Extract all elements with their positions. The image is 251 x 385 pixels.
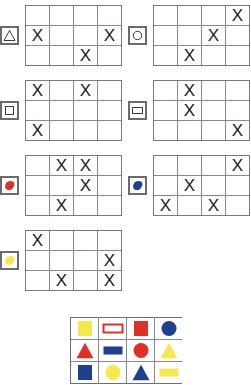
grid-cell-marked[interactable]: X bbox=[178, 46, 201, 65]
grid-cell-empty[interactable] bbox=[98, 101, 121, 120]
puzzle-circle: XXX bbox=[128, 5, 250, 66]
grid-cell-empty[interactable] bbox=[26, 101, 49, 120]
grid-cell-marked[interactable]: X bbox=[226, 6, 249, 25]
grid-cell-empty[interactable] bbox=[178, 121, 201, 140]
grid-cell-marked[interactable]: X bbox=[50, 196, 73, 215]
grid-cell-empty[interactable] bbox=[154, 176, 177, 195]
grid-cell-marked[interactable]: X bbox=[98, 26, 121, 45]
grid-cell-empty[interactable] bbox=[26, 6, 49, 25]
grid-cell-empty[interactable] bbox=[202, 156, 225, 175]
grid-cell-empty[interactable] bbox=[50, 46, 73, 65]
grid-cell-empty[interactable] bbox=[98, 231, 121, 250]
grid-cell-empty[interactable] bbox=[226, 196, 249, 215]
grid-cell-empty[interactable] bbox=[26, 271, 49, 290]
palette-cell[interactable] bbox=[127, 318, 154, 339]
grid-cell-empty[interactable] bbox=[50, 81, 73, 100]
grid-cell-empty[interactable] bbox=[98, 81, 121, 100]
grid-cell-marked[interactable]: X bbox=[26, 121, 49, 140]
grid-cell-empty[interactable] bbox=[178, 26, 201, 45]
grid-cell-empty[interactable] bbox=[74, 26, 97, 45]
grid-cell-marked[interactable]: X bbox=[202, 26, 225, 45]
palette-cell[interactable] bbox=[127, 340, 154, 361]
grid-cell-marked[interactable]: X bbox=[26, 26, 49, 45]
grid-cell-empty[interactable] bbox=[74, 6, 97, 25]
grid-cell-empty[interactable] bbox=[50, 251, 73, 270]
grid-cell-empty[interactable] bbox=[26, 196, 49, 215]
grid-cell-empty[interactable] bbox=[154, 6, 177, 25]
grid-cell-empty[interactable] bbox=[202, 101, 225, 120]
grid-cell-empty[interactable] bbox=[178, 196, 201, 215]
grid-cell-empty[interactable] bbox=[74, 231, 97, 250]
grid-cell-marked[interactable]: X bbox=[26, 231, 49, 250]
palette-cell[interactable] bbox=[99, 340, 126, 361]
grid-cell-empty[interactable] bbox=[202, 176, 225, 195]
grid-cell-empty[interactable] bbox=[74, 251, 97, 270]
palette-cell[interactable] bbox=[99, 362, 126, 383]
puzzle-yellow-blob: XXXX bbox=[0, 230, 122, 291]
grid-cell-empty[interactable] bbox=[154, 156, 177, 175]
grid-cell-marked[interactable]: X bbox=[74, 156, 97, 175]
grid-cell-marked[interactable]: X bbox=[178, 101, 201, 120]
grid-cell-marked[interactable]: X bbox=[98, 271, 121, 290]
grid-cell-empty[interactable] bbox=[98, 196, 121, 215]
palette-cell[interactable] bbox=[71, 318, 98, 339]
grid-cell-empty[interactable] bbox=[50, 26, 73, 45]
grid-cell-empty[interactable] bbox=[26, 251, 49, 270]
grid-cell-empty[interactable] bbox=[178, 156, 201, 175]
grid-cell-marked[interactable]: X bbox=[50, 271, 73, 290]
grid-cell-empty[interactable] bbox=[226, 101, 249, 120]
grid-cell-empty[interactable] bbox=[26, 156, 49, 175]
blue-square-icon bbox=[74, 364, 96, 381]
grid-cell-marked[interactable]: X bbox=[178, 81, 201, 100]
grid-cell-empty[interactable] bbox=[74, 101, 97, 120]
grid-cell-empty[interactable] bbox=[98, 46, 121, 65]
grid-cell-empty[interactable] bbox=[202, 121, 225, 140]
palette-cell[interactable] bbox=[127, 362, 154, 383]
grid-cell-empty[interactable] bbox=[226, 81, 249, 100]
grid-cell-marked[interactable]: X bbox=[178, 176, 201, 195]
grid-cell-empty[interactable] bbox=[74, 121, 97, 140]
grid-cell-empty[interactable] bbox=[50, 231, 73, 250]
palette-cell[interactable] bbox=[99, 318, 126, 339]
grid-cell-empty[interactable] bbox=[202, 46, 225, 65]
grid-cell-empty[interactable] bbox=[154, 26, 177, 45]
grid-cell-empty[interactable] bbox=[98, 121, 121, 140]
grid-cell-empty[interactable] bbox=[178, 6, 201, 25]
palette-cell[interactable] bbox=[155, 318, 182, 339]
grid-cell-empty[interactable] bbox=[98, 6, 121, 25]
palette-cell[interactable] bbox=[71, 340, 98, 361]
grid-cell-empty[interactable] bbox=[154, 81, 177, 100]
grid-cell-empty[interactable] bbox=[154, 101, 177, 120]
red-blob-icon bbox=[0, 176, 19, 195]
grid-cell-empty[interactable] bbox=[226, 176, 249, 195]
grid-cell-marked[interactable]: X bbox=[74, 46, 97, 65]
grid-cell-empty[interactable] bbox=[74, 196, 97, 215]
grid-cell-marked[interactable]: X bbox=[98, 251, 121, 270]
grid-cell-marked[interactable]: X bbox=[226, 121, 249, 140]
grid-cell-marked[interactable]: X bbox=[26, 81, 49, 100]
palette-cell[interactable] bbox=[155, 362, 182, 383]
grid-cell-marked[interactable]: X bbox=[202, 196, 225, 215]
palette-cell[interactable] bbox=[155, 340, 182, 361]
grid-cell-empty[interactable] bbox=[26, 46, 49, 65]
grid-cell-marked[interactable]: X bbox=[226, 156, 249, 175]
grid-cell-empty[interactable] bbox=[226, 46, 249, 65]
grid-cell-empty[interactable] bbox=[26, 176, 49, 195]
grid-cell-marked[interactable]: X bbox=[74, 81, 97, 100]
grid-cell-marked[interactable]: X bbox=[154, 196, 177, 215]
grid-cell-empty[interactable] bbox=[202, 6, 225, 25]
grid-cell-empty[interactable] bbox=[154, 46, 177, 65]
grid-cell-marked[interactable]: X bbox=[50, 156, 73, 175]
grid-cell-empty[interactable] bbox=[50, 6, 73, 25]
grid-cell-empty[interactable] bbox=[50, 176, 73, 195]
grid-cell-empty[interactable] bbox=[50, 101, 73, 120]
palette-cell[interactable] bbox=[71, 362, 98, 383]
grid-cell-empty[interactable] bbox=[154, 121, 177, 140]
grid-cell-empty[interactable] bbox=[98, 156, 121, 175]
grid-cell-empty[interactable] bbox=[202, 81, 225, 100]
grid-cell-empty[interactable] bbox=[50, 121, 73, 140]
grid-cell-empty[interactable] bbox=[98, 176, 121, 195]
grid-cell-marked[interactable]: X bbox=[74, 176, 97, 195]
grid-cell-empty[interactable] bbox=[226, 26, 249, 45]
grid-cell-empty[interactable] bbox=[74, 271, 97, 290]
